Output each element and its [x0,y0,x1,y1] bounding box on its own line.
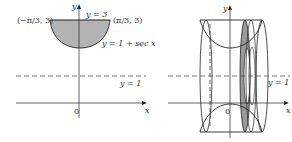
origin-label: 0 [74,107,79,116]
y-axis-label: y [222,4,228,13]
diagram-canvas: y x 0 y = 3 (−π/3, 3) (π/3, 3) y = 1 + s… [0,0,292,142]
x-axis-arrow-icon [142,101,147,105]
x-axis-arrow-icon [284,101,289,105]
y-axis-label: y [71,2,77,11]
origin-label: 0 [225,107,230,116]
right-panel: y x 0 y = 1 [168,4,291,138]
right-point-label: (π/3, 3) [113,16,142,25]
left-point-label: (−π/3, 3) [17,16,53,25]
y-axis-arrow-icon [77,4,81,9]
dashed-line-label: y = 1 [119,79,141,88]
x-axis-label: x [145,106,150,115]
left-panel: y x 0 y = 3 (−π/3, 3) (π/3, 3) y = 1 + s… [16,2,156,118]
top-line-label: y = 3 [85,10,107,19]
shaded-region [50,20,110,48]
curve-label: y = 1 + sec x [101,39,156,48]
x-axis-label: x [286,106,291,115]
y-axis-arrow-icon [228,5,232,10]
dashed-line-label: y = 1 [267,78,289,87]
